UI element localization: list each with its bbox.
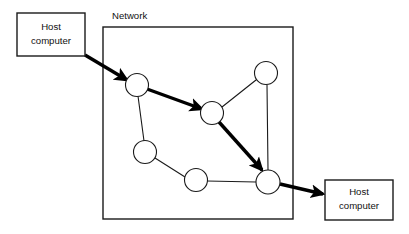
host-left-label-line2: computer	[31, 35, 72, 46]
message-path-host-left-to-node1	[85, 55, 127, 80]
host-right-label-line2: computer	[339, 200, 380, 211]
network-link-n1-n4	[138, 96, 144, 141]
network-link-n5-n6	[207, 181, 256, 182]
host-right-label-line1: Host	[349, 186, 369, 197]
network-node-n4	[134, 141, 157, 164]
message-path-node1-to-node2	[147, 89, 202, 109]
host-left-group: Host computer	[17, 13, 85, 56]
message-path-node6-to-host-right	[280, 184, 323, 194]
network-node-n2	[201, 102, 224, 125]
host-right-group: Host computer	[325, 180, 393, 220]
network-label: Network	[112, 10, 147, 21]
network-link-n2-n3	[222, 80, 256, 107]
network-node-n5	[185, 169, 208, 192]
message-path-node2-to-node6	[219, 122, 262, 170]
network-links-group	[138, 80, 268, 182]
network-link-n3-n6	[267, 85, 268, 170]
network-node-n6	[256, 170, 280, 194]
network-node-n1	[126, 74, 149, 97]
network-diagram-canvas: Network Host comp	[0, 0, 409, 234]
diagram-svg: Network Host comp	[0, 0, 409, 234]
host-left-label-line1: Host	[41, 21, 61, 32]
network-nodes-group	[126, 62, 281, 195]
network-link-n4-n5	[155, 158, 185, 177]
network-node-n3	[255, 62, 278, 85]
